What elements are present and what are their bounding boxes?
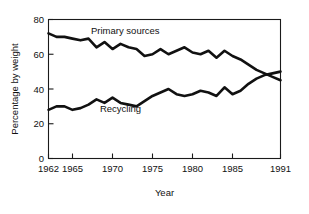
x-axis-title: Year (155, 187, 174, 198)
x-tick-label-1970: 1970 (102, 163, 123, 174)
x-tick-label-1975: 1975 (142, 163, 163, 174)
x-tick-label-1980: 1980 (182, 163, 203, 174)
y-tick-label-20: 20 (33, 118, 44, 129)
y-tick-label-40: 40 (33, 84, 44, 95)
primary-sources-label: Primary sources (91, 25, 160, 36)
x-tick-label-1965: 1965 (62, 163, 83, 174)
y-axis-title: Percentage by weight (9, 43, 20, 135)
line-chart-figure: 0 20 40 60 80 1962 1965 1970 1975 1980 1… (0, 0, 309, 214)
recycling-label: Recycling (100, 103, 141, 114)
x-tick-label-1985: 1985 (222, 163, 243, 174)
x-tick-label-1991: 1991 (270, 163, 291, 174)
y-tick-label-60: 60 (33, 49, 44, 60)
y-tick-label-80: 80 (33, 14, 44, 25)
x-tick-label-1962: 1962 (38, 163, 59, 174)
